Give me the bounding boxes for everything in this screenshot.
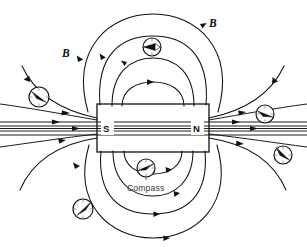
arrowhead-axial-right-1	[232, 119, 240, 124]
compass-top-center	[143, 38, 161, 56]
arrowhead-upper-inner	[147, 79, 154, 85]
field-label-right: B	[208, 17, 217, 29]
compass-lower-right	[274, 146, 292, 164]
arrowhead-lower-2	[174, 191, 181, 197]
upper-field-loops	[84, 14, 223, 112]
arrowhead-outer-upper-left	[24, 76, 31, 82]
arrowhead-lower-left-up	[73, 163, 80, 170]
north-pole-label: N	[193, 123, 200, 134]
arrowhead-axial-right-2	[250, 126, 258, 131]
arrowhead-left-fan-2	[58, 139, 66, 144]
axial-field-lines	[0, 122, 307, 135]
field-line-upper-4	[84, 14, 223, 112]
compass-bottom-left	[73, 199, 93, 219]
field-line-left-fan-1	[0, 104, 97, 120]
compass-below-magnet	[137, 159, 155, 177]
diagram-canvas: S N	[0, 0, 307, 247]
arrowhead-upper-2	[121, 61, 127, 67]
south-pole-label: S	[103, 123, 109, 134]
arrowhead-lower-inner	[166, 167, 173, 173]
arrowhead-right-fan-1	[238, 110, 246, 115]
compass-mid-right	[256, 105, 274, 123]
magnetic-field-diagram: S N	[0, 0, 307, 247]
arrowhead-upper-4-right	[200, 23, 207, 29]
compass-upper-left	[29, 87, 49, 107]
arrowhead-axial-left-2	[72, 126, 80, 131]
bar-magnet: S N	[97, 104, 209, 152]
field-line-upper-1	[122, 82, 184, 106]
arrowhead-upper-3	[100, 54, 106, 60]
arrowhead-upper-4-left	[77, 56, 83, 63]
arrowhead-axial-left-1	[52, 119, 60, 124]
compass-label: Compass	[127, 183, 164, 193]
field-label-left: B	[61, 47, 70, 59]
arrowhead-right-fan-2	[236, 141, 244, 147]
arrowhead-lower-3	[154, 212, 161, 218]
